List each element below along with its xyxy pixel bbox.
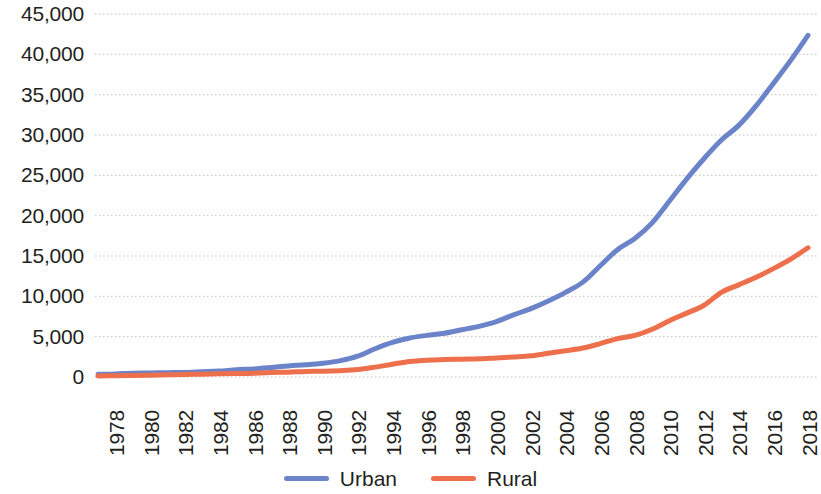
x-tick-label: 1992 xyxy=(348,410,369,456)
x-tick-label: 1994 xyxy=(383,410,404,456)
y-tick-label: 15,000 xyxy=(0,245,84,266)
x-tick-label: 1980 xyxy=(141,410,162,456)
series-lines xyxy=(98,35,808,376)
x-tick-label: 2004 xyxy=(556,410,577,456)
x-tick-label: 2016 xyxy=(764,410,785,456)
legend-item-rural[interactable]: Rural xyxy=(431,468,537,489)
x-tick-label: 1988 xyxy=(279,410,300,456)
y-tick-label: 10,000 xyxy=(0,285,84,306)
legend-swatch-urban xyxy=(284,476,329,481)
x-tick-label: 2000 xyxy=(487,410,508,456)
legend-label: Rural xyxy=(487,468,537,489)
y-tick-label: 35,000 xyxy=(0,84,84,105)
y-tick-label: 40,000 xyxy=(0,43,84,64)
x-tick-label: 1978 xyxy=(106,410,127,456)
gridlines xyxy=(95,14,817,377)
plot-svg xyxy=(95,0,817,382)
x-tick-label: 2006 xyxy=(591,410,612,456)
x-tick-label: 1982 xyxy=(175,410,196,456)
y-tick-label: 30,000 xyxy=(0,124,84,145)
x-tick-label: 1984 xyxy=(210,410,231,456)
y-tick-label: 45,000 xyxy=(0,3,84,24)
x-tick-label: 2008 xyxy=(626,410,647,456)
series-line-rural xyxy=(98,248,808,376)
x-tick-label: 1986 xyxy=(245,410,266,456)
series-line-urban xyxy=(98,35,808,374)
plot-area xyxy=(95,0,817,382)
y-tick-label: 20,000 xyxy=(0,205,84,226)
x-axis: 1978198019821984198619881990199219941996… xyxy=(95,382,817,458)
x-tick-label: 1996 xyxy=(418,410,439,456)
y-tick-label: 5,000 xyxy=(0,326,84,347)
legend-label: Urban xyxy=(340,468,397,489)
x-tick-label: 2002 xyxy=(522,410,543,456)
x-tick-label: 2014 xyxy=(729,410,750,456)
x-tick-label: 1998 xyxy=(452,410,473,456)
y-tick-label: 0 xyxy=(0,366,84,387)
y-axis: 05,00010,00015,00020,00025,00030,00035,0… xyxy=(0,0,84,390)
x-tick-label: 1990 xyxy=(314,410,335,456)
x-tick-label: 2018 xyxy=(799,410,820,456)
chart-legend: UrbanRural xyxy=(0,462,821,494)
x-tick-label: 2012 xyxy=(695,410,716,456)
legend-swatch-rural xyxy=(431,476,476,481)
y-tick-label: 25,000 xyxy=(0,164,84,185)
x-tick-label: 2010 xyxy=(660,410,681,456)
line-chart: 05,00010,00015,00020,00025,00030,00035,0… xyxy=(0,0,821,494)
legend-item-urban[interactable]: Urban xyxy=(284,468,397,489)
